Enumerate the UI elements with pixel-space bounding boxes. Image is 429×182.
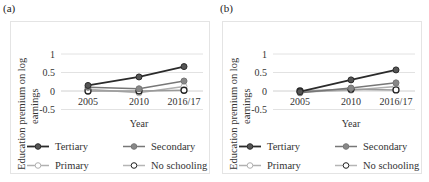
legend-marker <box>343 163 349 169</box>
panel-a-svg: Education premium on logearnings10.50-0.… <box>11 22 209 173</box>
x-tick-label: 2010 <box>341 96 361 107</box>
x-axis-title: Year <box>130 118 149 129</box>
x-tick-label: 2016/17 <box>168 96 201 107</box>
panel-b-label: (b) <box>220 2 233 14</box>
y-tick-label: 0.5 <box>43 67 56 78</box>
data-point <box>181 78 187 84</box>
legend-label: Tertiary <box>267 141 301 152</box>
y-tick-label: 0 <box>50 86 55 97</box>
legend-label: Secondary <box>151 141 196 152</box>
legend-label: Primary <box>55 160 90 171</box>
legend-item-secondary: Secondary <box>123 141 196 152</box>
y-axis-title-line1: Education premium on log <box>228 57 239 170</box>
data-point <box>393 87 399 93</box>
y-tick-label: -0.5 <box>39 104 55 115</box>
legend-marker <box>131 163 137 169</box>
legend-marker <box>343 144 349 150</box>
legend-marker <box>35 163 41 169</box>
legend-item-secondary: Secondary <box>335 141 408 152</box>
legend-marker <box>131 144 137 150</box>
y-tick-label: -0.5 <box>251 104 267 115</box>
legend-label: No schooling <box>363 160 420 171</box>
legend-marker <box>247 163 253 169</box>
legend-item-primary: Primary <box>239 160 302 171</box>
x-tick-label: 2005 <box>78 96 98 107</box>
data-point <box>348 85 354 91</box>
legend-label: No schooling <box>151 160 208 171</box>
y-tick-label: 1 <box>50 49 55 60</box>
data-point <box>136 74 142 80</box>
data-point <box>181 64 187 70</box>
data-point <box>85 82 91 88</box>
legend-item-primary: Primary <box>27 160 90 171</box>
legend-marker <box>35 144 41 150</box>
y-axis-title: Education premium on logearnings <box>16 57 40 170</box>
y-tick-label: 1 <box>262 49 267 60</box>
data-point <box>393 80 399 86</box>
legend-item-no-schooling: No schooling <box>335 160 420 171</box>
legend-item-no-schooling: No schooling <box>123 160 208 171</box>
data-point <box>181 87 187 93</box>
data-point <box>297 89 303 95</box>
legend-label: Tertiary <box>55 141 89 152</box>
y-tick-label: 0 <box>262 86 267 97</box>
y-tick-label: 0.5 <box>255 67 268 78</box>
x-tick-label: 2010 <box>129 96 149 107</box>
legend-marker <box>247 144 253 150</box>
data-point <box>393 67 399 73</box>
legend-item-tertiary: Tertiary <box>239 141 301 152</box>
x-tick-label: 2016/17 <box>380 96 413 107</box>
panel-a-chart: Education premium on logearnings10.50-0.… <box>10 21 210 174</box>
x-tick-label: 2005 <box>290 96 310 107</box>
legend-label: Primary <box>267 160 302 171</box>
panel-b-chart: Education premium on logearnings10.50-0.… <box>222 21 422 174</box>
y-axis-title: Education premium on logearnings <box>228 57 252 170</box>
x-axis-title: Year <box>342 118 361 129</box>
y-axis-title-line1: Education premium on log <box>16 57 27 170</box>
data-point <box>348 77 354 83</box>
panel-b-svg: Education premium on logearnings10.50-0.… <box>223 22 421 173</box>
legend-item-tertiary: Tertiary <box>27 141 89 152</box>
legend-label: Secondary <box>363 141 408 152</box>
data-point <box>136 86 142 92</box>
panel-a-label: (a) <box>3 2 15 14</box>
